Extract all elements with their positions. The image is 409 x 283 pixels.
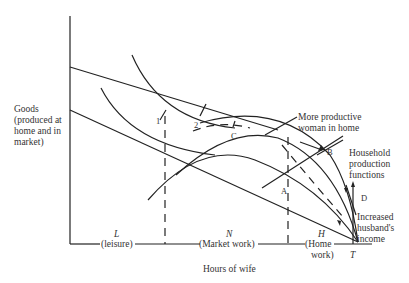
annotation-household-line1: Household: [349, 148, 390, 159]
annotation-income-line1: Increased: [357, 212, 394, 223]
x-axis-label: Hours of wife: [203, 264, 256, 275]
annotation-more-productive-line2: woman in home: [298, 123, 362, 134]
y-label-line1: Goods: [14, 104, 62, 115]
y-axis-label: Goods (produced at home and in market): [14, 104, 62, 148]
tick-c: [233, 121, 235, 127]
annotation-increased-income: Increased husband's income: [357, 212, 394, 245]
segment-n-desc: (Market work): [199, 239, 255, 250]
y-label-line2: (produced at: [14, 115, 62, 126]
annotation-household-line2: production: [349, 159, 390, 170]
production-function-outer: [200, 116, 358, 242]
annotation-more-productive: More productive woman in home: [298, 112, 362, 134]
segment-l-desc: (leisure): [101, 239, 133, 250]
y-label-line3: home and in: [14, 126, 62, 137]
arrow-lower-curve: [337, 220, 341, 226]
segment-h-desc-1: (Home: [305, 239, 331, 250]
point-a-label: A: [281, 186, 287, 197]
production-function-inner: [148, 155, 358, 242]
point-c-label: C: [231, 131, 237, 142]
y-label-line4: market): [14, 137, 62, 148]
point-d-label: D: [361, 193, 367, 204]
endpoint-t-label: T: [350, 250, 355, 261]
point-b-label: B: [327, 147, 333, 158]
annotation-household-production: Household production functions: [349, 148, 390, 181]
arrow-income: [351, 181, 355, 187]
point-2-label: 2: [194, 120, 198, 131]
point-1-label: 1: [156, 116, 160, 127]
annotation-household-line3: functions: [349, 170, 390, 181]
annotation-more-productive-line1: More productive: [298, 112, 362, 123]
tick-2: [200, 104, 206, 116]
annotation-income-line3: income: [357, 234, 394, 245]
indifference-curve-upper: [132, 55, 235, 128]
segment-h-desc-2: work): [311, 250, 334, 261]
annotation-income-line2: husband's: [357, 223, 394, 234]
upper-budget-line: [70, 67, 278, 130]
